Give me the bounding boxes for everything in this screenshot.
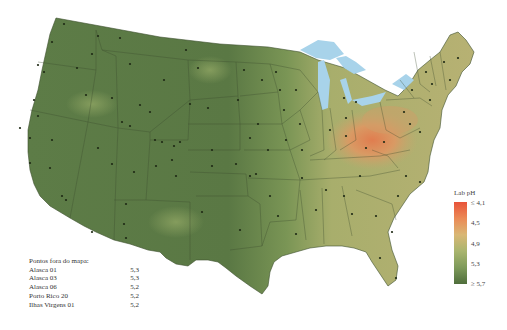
offmap-value: 5,2 <box>130 301 139 310</box>
legend-tick: 4,5 <box>471 219 480 227</box>
offmap-row: Alasca 065,2 <box>29 283 139 292</box>
legend-tick: 4,9 <box>471 240 480 248</box>
offmap-value: 5,3 <box>130 274 139 283</box>
offmap-site: Ilhas Virgens 01 <box>29 301 75 310</box>
offmap-row: Alasca 015,3 <box>29 266 139 275</box>
legend-tick: 5,3 <box>471 260 480 268</box>
legend-tick: ≤ 4,1 <box>471 199 485 207</box>
offmap-row: Porto Rico 205,2 <box>29 292 139 301</box>
offmap-site: Alasca 01 <box>29 266 57 275</box>
offmap-value: 5,3 <box>130 266 139 275</box>
offmap-title: Pontos fora do mapa: <box>29 257 139 266</box>
offmap-site: Alasca 03 <box>29 274 57 283</box>
legend-color-ramp <box>454 202 467 284</box>
offmap-row: Ilhas Virgens 015,2 <box>29 301 139 310</box>
offmap-value: 5,2 <box>130 283 139 292</box>
offmap-value: 5,2 <box>130 292 139 301</box>
legend-title: Lab pH <box>454 189 475 197</box>
offmap-points-table: Pontos fora do mapa: Alasca 015,3 Alasca… <box>29 257 139 309</box>
offmap-site: Porto Rico 20 <box>29 292 68 301</box>
ph-legend: Lab pH ≤ 4,1 4,5 4,9 5,3 ≥ 5,7 <box>452 189 507 299</box>
legend-tick: ≥ 5,7 <box>471 280 485 288</box>
offmap-row: Alasca 035,3 <box>29 274 139 283</box>
offmap-site: Alasca 06 <box>29 283 57 292</box>
